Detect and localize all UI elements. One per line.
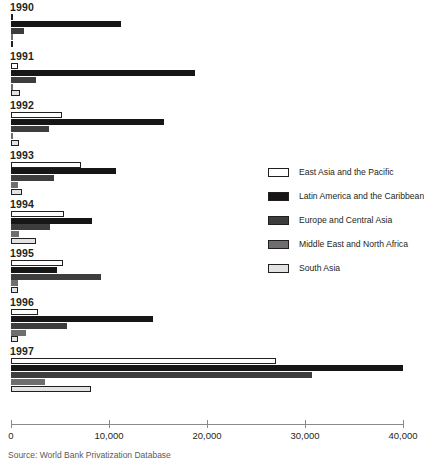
axis-tick-label: 40,000: [388, 430, 417, 441]
axis-tick: [305, 420, 306, 428]
bar: [11, 211, 64, 217]
bar: [11, 70, 195, 76]
bar: [11, 267, 57, 273]
year-label: 1994: [10, 199, 34, 210]
bar: [11, 372, 312, 378]
bar: [11, 358, 276, 364]
legend-label: East Asia and the Pacific: [299, 167, 394, 177]
bar: [11, 63, 18, 69]
legend-item[interactable]: Europe and Central Asia: [268, 208, 418, 232]
axis-tick-label: 30,000: [290, 430, 319, 441]
bar: [11, 175, 54, 181]
bar: [11, 140, 19, 146]
bar: [11, 287, 18, 293]
bar: [11, 379, 45, 385]
bar: [11, 126, 49, 132]
bar-stack: [11, 260, 101, 294]
axis-tick: [109, 420, 110, 428]
axis-tick-label: 20,000: [192, 430, 221, 441]
year-label: 1990: [10, 2, 34, 13]
bar-stack: [11, 63, 195, 97]
bar: [11, 34, 13, 40]
legend-item[interactable]: East Asia and the Pacific: [268, 160, 418, 184]
legend-item[interactable]: Latin America and the Caribbean: [268, 184, 418, 208]
year-label: 1995: [10, 248, 34, 259]
bar-stack: [11, 358, 403, 392]
bar: [11, 274, 101, 280]
year-label: 1997: [10, 346, 34, 357]
year-label: 1991: [10, 51, 34, 62]
bar: [11, 238, 36, 244]
bar: [11, 309, 38, 315]
bar: [11, 84, 13, 90]
bar: [11, 231, 19, 237]
bar-stack: [11, 112, 164, 146]
bar-stack: [11, 309, 153, 343]
legend-swatch-icon: [268, 240, 289, 249]
bar: [11, 336, 18, 342]
legend-item[interactable]: Middle East and North Africa: [268, 232, 418, 256]
bar: [11, 14, 13, 20]
legend-swatch-icon: [268, 192, 289, 201]
bar: [11, 168, 116, 174]
axis-tick-label: 0: [8, 430, 13, 441]
legend-label: Middle East and North Africa: [299, 239, 408, 249]
legend-swatch-icon: [268, 216, 289, 225]
axis-tick: [207, 420, 208, 428]
legend-swatch-icon: [268, 264, 289, 273]
bar: [11, 119, 164, 125]
source-note: Source: World Bank Privatization Databas…: [8, 450, 171, 460]
x-axis: 010,00020,00030,00040,000: [0, 420, 418, 446]
legend-label: Europe and Central Asia: [299, 215, 392, 225]
bar: [11, 28, 24, 34]
chart-legend: East Asia and the PacificLatin America a…: [268, 160, 418, 280]
bar-stack: [11, 14, 121, 48]
legend-swatch-icon: [268, 168, 289, 177]
bar: [11, 365, 403, 371]
year-label: 1993: [10, 150, 34, 161]
axis-tick-label: 10,000: [94, 430, 123, 441]
bar: [11, 90, 20, 96]
axis-tick: [403, 420, 404, 428]
year-label: 1992: [10, 100, 34, 111]
bar: [11, 330, 26, 336]
bar: [11, 224, 50, 230]
bar: [11, 21, 121, 27]
bar: [11, 316, 153, 322]
bar: [11, 77, 36, 83]
bar-stack: [11, 211, 92, 245]
bar: [11, 218, 92, 224]
legend-item[interactable]: South Asia: [268, 256, 418, 280]
bar: [11, 323, 67, 329]
bar: [11, 182, 18, 188]
bar: [11, 112, 62, 118]
legend-label: Latin America and the Caribbean: [299, 191, 424, 201]
bar-stack: [11, 162, 116, 196]
bar: [11, 133, 13, 139]
legend-label: South Asia: [299, 263, 340, 273]
bar: [11, 41, 13, 47]
bar: [11, 280, 18, 286]
bar: [11, 386, 91, 392]
bar: [11, 189, 22, 195]
axis-tick: [11, 420, 12, 428]
bar: [11, 260, 63, 266]
bar: [11, 162, 81, 168]
year-label: 1996: [10, 297, 34, 308]
